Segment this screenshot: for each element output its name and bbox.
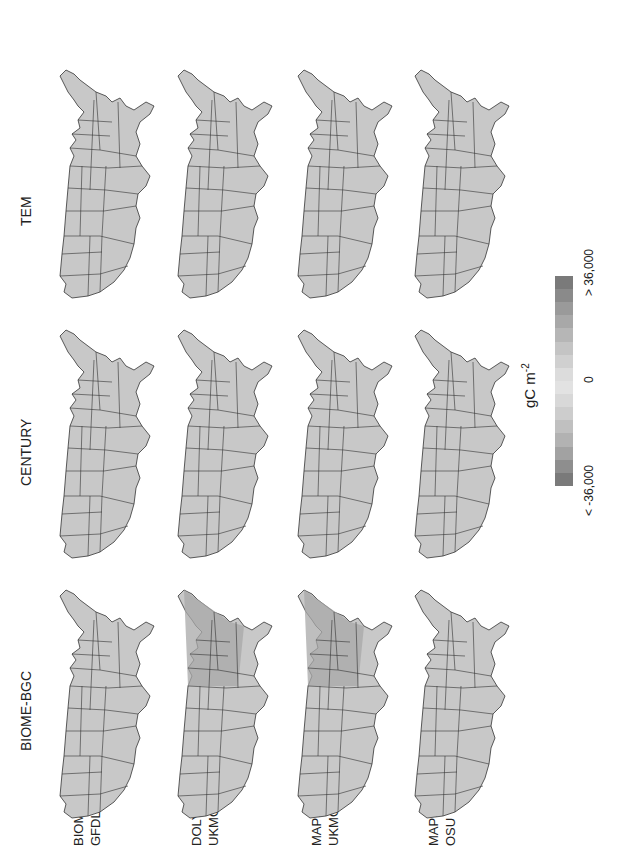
unit-exponent: -2 <box>520 363 531 372</box>
column-title-biome-bgc: BIOME-BGC <box>18 671 34 751</box>
legend-swatch <box>555 329 573 342</box>
unit-text: gC m <box>521 372 538 408</box>
legend-swatch <box>555 420 573 433</box>
legend-max-label: > 36,000 <box>582 249 596 296</box>
us-map-biome-bgc-mapss-ukmo <box>288 586 398 826</box>
legend-swatch <box>555 460 573 473</box>
us-map-century-mapss-osu <box>405 326 515 566</box>
legend-swatch <box>555 355 573 368</box>
us-map-tem-mapss-osu <box>405 66 515 306</box>
legend-swatch <box>555 381 573 394</box>
us-map-century-biome2-gfdl-r30 <box>50 326 160 566</box>
us-map-biome-bgc-biome2-gfdl-r30 <box>50 586 160 826</box>
us-map-century-doly-ukmo <box>168 326 278 566</box>
legend-swatch <box>555 315 573 328</box>
us-map-biome-bgc-doly-ukmo <box>168 586 278 826</box>
legend-swatch <box>555 302 573 315</box>
column-title-tem: TEM <box>18 196 34 226</box>
legend-swatch <box>555 289 573 302</box>
us-map-century-mapss-ukmo <box>288 326 398 566</box>
legend-swatch <box>555 434 573 447</box>
legend-swatch <box>555 342 573 355</box>
legend-unit: gC m-2 <box>520 363 538 408</box>
us-map-tem-mapss-ukmo <box>288 66 398 306</box>
legend-swatch <box>555 276 573 289</box>
legend-swatch <box>555 473 573 486</box>
legend-min-label: < -36,000 <box>582 465 596 516</box>
legend-swatch <box>555 407 573 420</box>
legend-swatch <box>555 368 573 381</box>
legend-swatch <box>555 447 573 460</box>
us-map-biome-bgc-mapss-osu <box>405 586 515 826</box>
us-map-tem-biome2-gfdl-r30 <box>50 66 160 306</box>
us-map-tem-doly-ukmo <box>168 66 278 306</box>
color-scale-bar <box>555 276 573 486</box>
legend-swatch <box>555 394 573 407</box>
column-title-century: CENTURY <box>18 419 34 486</box>
figure-canvas: BIOME-BGC CENTURY TEM BIOME2 GFDL-R30 DO… <box>0 0 630 866</box>
legend-mid-label: 0 <box>582 376 596 383</box>
